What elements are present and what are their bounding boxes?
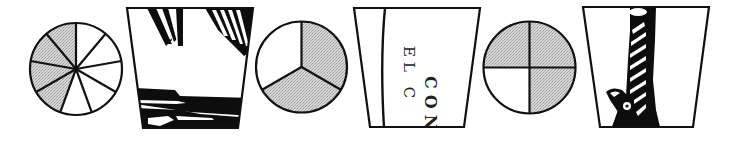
- picture-card-fringe: [127, 8, 253, 130]
- fraction-circle-thirds: [256, 21, 347, 112]
- column-illustration: [606, 7, 660, 127]
- picture-card-text: EL C CON: [354, 8, 480, 135]
- fringe-left-illustration: [147, 8, 183, 46]
- fraction-circle-ninths: [30, 23, 122, 115]
- fraction-puzzle-strip: EL C CON: [0, 0, 745, 142]
- vertical-rule: [382, 8, 385, 128]
- stripes-illustration: [135, 88, 253, 130]
- card-text-line1: EL C: [400, 46, 418, 103]
- picture-card-column: [583, 7, 709, 127]
- center-dot: [74, 67, 78, 71]
- fraction-circle-quarters: [484, 22, 576, 114]
- fringe-right-illustration: [205, 8, 253, 56]
